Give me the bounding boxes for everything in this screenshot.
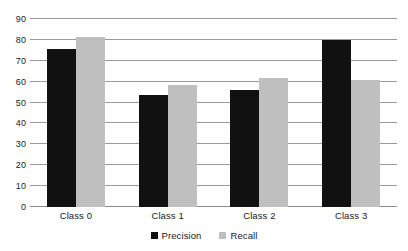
bar-recall-class-1 (168, 85, 197, 207)
y-axis-tick-label: 0 (21, 203, 26, 212)
x-axis: Class 0Class 1Class 2Class 3 (30, 210, 397, 222)
y-axis-tick-label: 80 (16, 35, 26, 44)
bar-recall-class-3 (351, 80, 380, 207)
legend-swatch-icon (219, 232, 226, 239)
y-axis: 9080706050403020100 (0, 19, 26, 207)
bar-precision-class-1 (139, 95, 168, 207)
x-axis-tick-label: Class 2 (214, 210, 306, 222)
bar-precision-class-3 (322, 40, 351, 207)
y-axis-tick-label: 30 (16, 140, 26, 149)
y-axis-tick-label: 60 (16, 77, 26, 86)
x-axis-tick-label: Class 3 (305, 210, 397, 222)
legend-item-recall[interactable]: Recall (219, 230, 257, 241)
legend-label: Precision (162, 230, 202, 241)
bar-group (305, 19, 397, 207)
bar-recall-class-2 (259, 78, 288, 208)
x-axis-tick-label: Class 1 (122, 210, 214, 222)
y-axis-tick-label: 10 (16, 182, 26, 191)
x-axis-tick-label: Class 0 (30, 210, 122, 222)
bar-group (122, 19, 214, 207)
y-axis-tick-label: 90 (16, 15, 26, 24)
y-axis-tick-label: 20 (16, 161, 26, 170)
bars-layer (30, 19, 397, 207)
bar-recall-class-0 (76, 37, 105, 207)
legend-swatch-icon (151, 232, 158, 239)
bar-precision-class-0 (47, 49, 76, 207)
y-axis-tick-label: 40 (16, 119, 26, 128)
plot-area (30, 19, 397, 207)
legend-item-precision[interactable]: Precision (151, 230, 202, 241)
bar-group (214, 19, 306, 207)
bar-group (30, 19, 122, 207)
bar-precision-class-2 (230, 90, 259, 207)
chart-legend: PrecisionRecall (0, 230, 408, 241)
legend-label: Recall (230, 230, 257, 241)
y-axis-tick-label: 70 (16, 56, 26, 65)
y-axis-tick-label: 50 (16, 98, 26, 107)
bar-chart: 9080706050403020100 Class 0Class 1Class … (0, 0, 408, 251)
